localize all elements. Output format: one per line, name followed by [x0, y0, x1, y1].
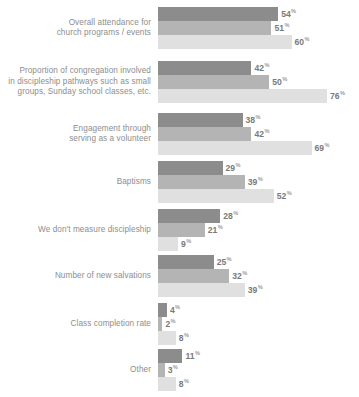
- bar-series-1: [158, 161, 223, 175]
- bar-row: 54%: [158, 7, 359, 21]
- bar-row: 28%: [158, 209, 359, 223]
- bar-series-2: [158, 363, 165, 377]
- bar-row: 4%: [158, 303, 359, 317]
- bar-group: Overall attendance for church programs /…: [0, 4, 359, 52]
- bar-value-number: 51: [274, 23, 284, 33]
- percent-sign: %: [173, 364, 178, 370]
- percent-sign: %: [284, 22, 289, 28]
- bar-series-1: [158, 209, 220, 223]
- percent-sign: %: [227, 256, 232, 262]
- bar-series-1: [158, 349, 182, 363]
- bar-value-label: 54%: [281, 9, 296, 18]
- category-label: We don't measure discipleship: [0, 225, 158, 235]
- bar-value-label: 52%: [277, 191, 292, 200]
- percent-sign: %: [235, 162, 240, 168]
- bar-value-number: 2: [165, 319, 170, 329]
- bar-row: 2%: [158, 317, 359, 331]
- bar-row: 9%: [158, 237, 359, 251]
- category-label: Other: [0, 365, 158, 375]
- bar-group: Other11%3%8%: [0, 346, 359, 394]
- bar-series-2: [158, 21, 271, 35]
- bar-stack: 42%50%76%: [158, 58, 359, 106]
- bar-value-number: 28: [223, 211, 233, 221]
- bar-value-label: 39%: [248, 285, 263, 294]
- bar-row: 38%: [158, 113, 359, 127]
- bar-group: Engagement through serving as a voluntee…: [0, 110, 359, 158]
- bar-stack: 28%21%9%: [158, 206, 359, 254]
- bar-value-label: 9%: [181, 239, 191, 248]
- percent-sign: %: [186, 238, 191, 244]
- bar-row: 29%: [158, 161, 359, 175]
- bar-series-3: [158, 35, 292, 49]
- bar-value-label: 2%: [165, 319, 175, 328]
- percent-sign: %: [287, 190, 292, 196]
- grouped-bar-chart: Overall attendance for church programs /…: [0, 0, 359, 397]
- bar-value-label: 50%: [272, 77, 287, 86]
- bar-series-2: [158, 75, 269, 89]
- chart-footnote: [2, 391, 359, 397]
- bar-value-number: 11: [185, 351, 194, 361]
- bar-value-number: 42: [254, 63, 264, 73]
- bar-row: 51%: [158, 21, 359, 35]
- bar-value-label: 38%: [246, 115, 261, 124]
- bar-value-label: 39%: [248, 177, 263, 186]
- bar-value-number: 39: [248, 177, 258, 187]
- bar-value-number: 29: [226, 163, 236, 173]
- bar-stack: 38%42%69%: [158, 110, 359, 158]
- percent-sign: %: [184, 332, 189, 338]
- bar-value-number: 21: [208, 225, 218, 235]
- bar-row: 8%: [158, 377, 359, 391]
- bar-series-1: [158, 7, 278, 21]
- bar-series-3: [158, 377, 176, 391]
- bar-value-number: 8: [179, 333, 184, 343]
- bar-series-2: [158, 269, 229, 283]
- percent-sign: %: [233, 210, 238, 216]
- bar-value-label: 3%: [168, 365, 178, 374]
- bar-row: 42%: [158, 61, 359, 75]
- bar-stack: 29%39%52%: [158, 158, 359, 206]
- bar-value-label: 42%: [254, 129, 269, 138]
- bar-row: 25%: [158, 255, 359, 269]
- bar-row: 69%: [158, 141, 359, 155]
- bar-series-1: [158, 61, 251, 75]
- percent-sign: %: [258, 176, 263, 182]
- bar-series-3: [158, 283, 245, 297]
- bar-series-1: [158, 303, 167, 317]
- percent-sign: %: [171, 318, 176, 324]
- bar-row: 76%: [158, 89, 359, 103]
- bar-value-number: 50: [272, 77, 282, 87]
- bar-value-number: 54: [281, 9, 291, 19]
- bar-row: 8%: [158, 331, 359, 345]
- bar-row: 50%: [158, 75, 359, 89]
- category-label: Engagement through serving as a voluntee…: [0, 124, 158, 145]
- bar-value-label: 8%: [179, 333, 189, 342]
- bar-value-label: 25%: [217, 257, 232, 266]
- bar-value-number: 42: [254, 129, 264, 139]
- bar-value-number: 25: [217, 257, 227, 267]
- bar-series-3: [158, 331, 176, 345]
- bar-stack: 25%32%39%: [158, 252, 359, 300]
- bar-value-number: 8: [179, 379, 184, 389]
- bar-row: 32%: [158, 269, 359, 283]
- bar-value-label: 28%: [223, 211, 238, 220]
- bar-value-number: 38: [246, 115, 256, 125]
- bar-group: We don't measure discipleship28%21%9%: [0, 206, 359, 254]
- category-label: Proportion of congregation involved in d…: [0, 66, 158, 97]
- category-label: Overall attendance for church programs /…: [0, 18, 158, 39]
- bar-stack: 11%3%8%: [158, 346, 359, 394]
- bar-value-label: 42%: [254, 63, 269, 72]
- bar-value-label: 60%: [295, 37, 310, 46]
- bar-series-2: [158, 175, 245, 189]
- bar-row: 60%: [158, 35, 359, 49]
- percent-sign: %: [264, 62, 269, 68]
- percent-sign: %: [184, 378, 189, 384]
- bar-value-number: 69: [315, 143, 325, 153]
- percent-sign: %: [304, 36, 309, 42]
- bar-value-number: 52: [277, 191, 287, 201]
- bar-series-3: [158, 237, 178, 251]
- bar-value-number: 32: [232, 271, 242, 281]
- bar-value-number: 60: [295, 37, 305, 47]
- bar-value-label: 4%: [170, 305, 180, 314]
- bar-value-label: 32%: [232, 271, 247, 280]
- bar-row: 11%: [158, 349, 359, 363]
